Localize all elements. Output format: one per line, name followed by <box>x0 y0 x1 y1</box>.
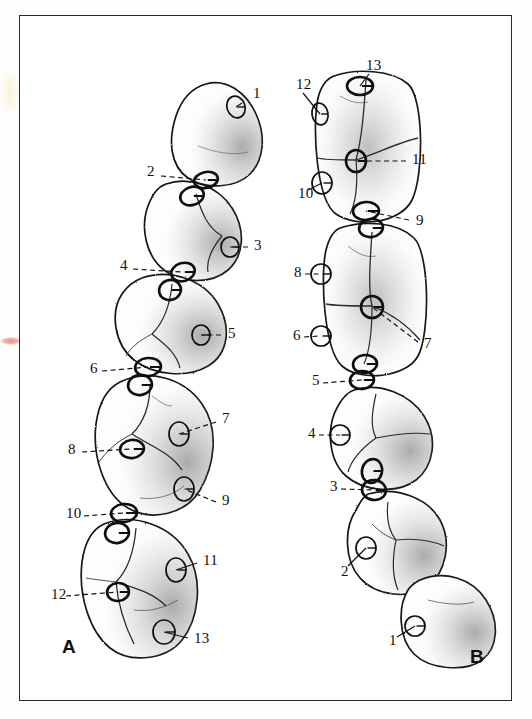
callout-label-a-7: 7 <box>222 411 230 426</box>
tooth-a5 <box>81 520 197 658</box>
callout-label-a-10: 10 <box>66 506 82 521</box>
callout-label-a-9: 9 <box>222 493 230 508</box>
callout-label-b-1: 1 <box>389 633 397 648</box>
callout-label-a-12: 12 <box>51 587 67 602</box>
callout-label-b-7: 7 <box>424 336 432 351</box>
panel-letter-a: A <box>62 637 76 656</box>
leader-line-a-10 <box>84 513 124 516</box>
callout-label-a-2: 2 <box>147 164 155 179</box>
leader-line-b-5 <box>323 380 362 383</box>
callout-label-a-8: 8 <box>68 442 76 457</box>
leader-line-b-6 <box>304 336 321 337</box>
callout-label-b-2: 2 <box>341 564 349 579</box>
callout-label-b-11: 11 <box>412 152 427 167</box>
tooth-a4 <box>95 376 213 515</box>
callout-label-b-6: 6 <box>293 328 301 343</box>
leader-line-b-3 <box>341 489 374 490</box>
callout-label-a-1: 1 <box>253 86 261 101</box>
callout-label-b-13: 13 <box>366 58 382 73</box>
callout-label-a-13: 13 <box>194 631 210 646</box>
callout-label-b-10: 10 <box>298 186 314 201</box>
callout-label-b-3: 3 <box>330 479 338 494</box>
tooth-occlusal-figure <box>0 0 532 719</box>
panel-letter-b: B <box>470 647 484 666</box>
callout-label-b-9: 9 <box>416 213 424 228</box>
tooth-b2 <box>323 223 426 375</box>
callout-label-b-8: 8 <box>294 265 302 280</box>
tooth-a1 <box>172 83 263 186</box>
callout-label-b-5: 5 <box>312 373 320 388</box>
tooth-column-a <box>81 83 262 658</box>
callout-label-a-4: 4 <box>120 258 128 273</box>
callout-label-a-3: 3 <box>254 238 262 253</box>
tooth-a3 <box>115 274 226 373</box>
callout-label-a-11: 11 <box>203 553 218 568</box>
callout-label-a-6: 6 <box>90 361 98 376</box>
callout-label-a-5: 5 <box>228 326 236 341</box>
leader-line-a-6 <box>102 367 148 371</box>
callout-label-b-12: 12 <box>296 77 312 92</box>
callout-label-b-4: 4 <box>308 426 316 441</box>
